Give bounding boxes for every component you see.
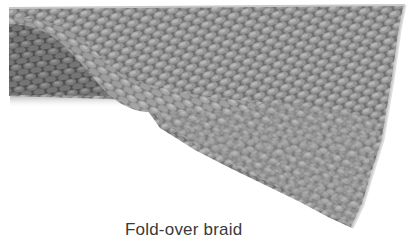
braid-flare (140, 100, 378, 228)
figure-caption: Fold-over braid (125, 220, 242, 240)
figure: Fold-over braid (0, 0, 419, 244)
braid-photo (0, 0, 419, 244)
